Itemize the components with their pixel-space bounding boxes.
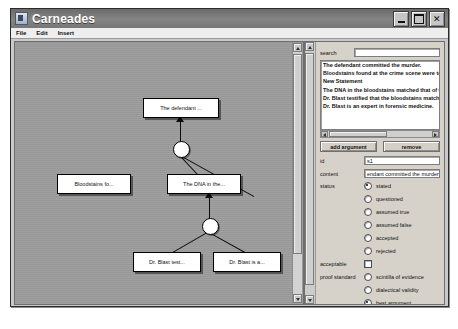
acceptable-checkbox[interactable] xyxy=(364,260,372,268)
inspector-panel: search The defendant committed the murde… xyxy=(304,41,445,305)
graph-surface[interactable]: The defendant ... Bloodstains fo... The … xyxy=(15,42,303,304)
proof-radio-dialectical[interactable] xyxy=(364,286,372,294)
status-option-questioned[interactable]: questioned xyxy=(376,196,403,202)
list-item[interactable]: The defendant committed the murder. xyxy=(321,61,439,69)
list-horizontal-scrollbar[interactable] xyxy=(320,130,440,138)
list-item[interactable]: New Statement xyxy=(321,77,439,85)
list-item[interactable]: The DNA in the bloodstains matched that … xyxy=(321,86,439,94)
proof-radio-scintilla[interactable] xyxy=(364,273,372,281)
status-row: status stated xyxy=(320,182,440,190)
status-radio-assumed-true[interactable] xyxy=(364,208,372,216)
graph-node-statement[interactable]: The DNA in the... xyxy=(167,174,241,194)
graph-node-statement[interactable]: Dr. Blast test... xyxy=(133,252,201,272)
scroll-down-icon[interactable] xyxy=(293,294,302,303)
screenshot-root: Carneades ✕ File Edit Insert xyxy=(0,0,458,329)
panel-scroll-up-icon[interactable] xyxy=(305,42,314,51)
proof-row-dialectical: dialectical validity xyxy=(364,286,440,294)
list-item[interactable]: Dr. Blast is an expert in forensic medic… xyxy=(321,102,439,110)
search-label: search xyxy=(320,50,354,56)
content-row: content endant committed the murder xyxy=(320,169,440,178)
menu-insert[interactable]: Insert xyxy=(57,30,75,36)
proof-option-scintilla[interactable]: scintilla of evidence xyxy=(376,274,424,280)
maximize-icon xyxy=(412,12,426,26)
close-icon: ✕ xyxy=(430,12,444,26)
add-argument-button[interactable]: add argument xyxy=(320,141,377,152)
window-controls: ✕ xyxy=(393,11,445,27)
action-button-row: add argument remove xyxy=(320,141,440,152)
application-window: Carneades ✕ File Edit Insert xyxy=(10,8,449,307)
status-row-rejected: rejected xyxy=(364,247,440,255)
acceptable-label: acceptable xyxy=(320,261,364,267)
window-content: The defendant ... Bloodstains fo... The … xyxy=(14,41,445,303)
close-button[interactable]: ✕ xyxy=(429,11,445,27)
title-bar[interactable]: Carneades ✕ xyxy=(11,9,448,29)
status-radio-accepted[interactable] xyxy=(364,234,372,242)
minimize-button[interactable] xyxy=(393,11,409,27)
status-option-stated[interactable]: stated xyxy=(376,183,391,189)
panel-vertical-scrollbar[interactable] xyxy=(305,42,316,304)
status-option-assumed-false[interactable]: assumed false xyxy=(376,222,411,228)
menu-edit[interactable]: Edit xyxy=(35,30,48,36)
status-row-assumed-false: assumed false xyxy=(364,221,440,229)
inspector-body: search The defendant committed the murde… xyxy=(316,42,444,304)
scroll-up-icon[interactable] xyxy=(293,43,302,52)
id-row: id s1 xyxy=(320,156,440,165)
graph-node-statement[interactable]: The defendant ... xyxy=(143,98,219,118)
graph-node-argument[interactable] xyxy=(173,141,190,158)
panel-scroll-down-icon[interactable] xyxy=(305,295,314,304)
status-option-accepted[interactable]: accepted xyxy=(376,235,398,241)
id-field[interactable]: s1 xyxy=(364,156,440,165)
graph-node-statement[interactable]: Bloodstains fo... xyxy=(57,174,131,194)
window-title: Carneades xyxy=(32,12,95,26)
app-icon xyxy=(15,12,28,25)
proof-standard-row: proof standard scintilla of evidence xyxy=(320,273,440,281)
statement-list[interactable]: The defendant committed the murder. Bloo… xyxy=(320,60,440,130)
scroll-right-icon[interactable] xyxy=(432,131,439,137)
list-item[interactable]: Dr. Blast testified that the bloodstains… xyxy=(321,94,439,102)
canvas-scroll-thumb[interactable] xyxy=(293,54,302,254)
graph-node-argument[interactable] xyxy=(202,218,219,235)
status-radio-rejected[interactable] xyxy=(364,247,372,255)
status-row-questioned: questioned xyxy=(364,195,440,203)
status-radio-stated[interactable] xyxy=(364,182,372,190)
content-field[interactable]: endant committed the murder xyxy=(364,169,440,178)
search-input[interactable] xyxy=(354,48,440,57)
content-label: content xyxy=(320,171,364,177)
minimize-icon xyxy=(394,12,408,26)
canvas-vertical-scrollbar[interactable] xyxy=(292,43,302,303)
status-option-assumed-true[interactable]: assumed true xyxy=(376,209,409,215)
status-row-assumed-true: assumed true xyxy=(364,208,440,216)
proof-row-best-argument: best argument xyxy=(364,299,440,305)
edge-a2-n5 xyxy=(209,232,246,253)
list-item[interactable]: Bloodstains found at the crime scene wer… xyxy=(321,69,439,77)
status-option-rejected[interactable]: rejected xyxy=(376,248,396,254)
menu-bar: File Edit Insert xyxy=(11,28,448,39)
status-label: status xyxy=(320,183,364,189)
search-row: search xyxy=(320,47,440,58)
status-row-accepted: accepted xyxy=(364,234,440,242)
scroll-left-icon[interactable] xyxy=(321,131,328,137)
status-radio-assumed-false[interactable] xyxy=(364,221,372,229)
panel-scroll-thumb[interactable] xyxy=(305,53,314,285)
acceptable-row: acceptable xyxy=(320,260,440,268)
argument-graph-canvas[interactable]: The defendant ... Bloodstains fo... The … xyxy=(14,41,304,305)
id-label: id xyxy=(320,158,364,164)
proof-option-best-argument[interactable]: best argument xyxy=(376,300,411,305)
proof-radio-best-argument[interactable] xyxy=(364,299,372,305)
status-radio-questioned[interactable] xyxy=(364,195,372,203)
remove-button[interactable]: remove xyxy=(383,141,440,152)
property-form: id s1 content endant committed the murde… xyxy=(316,156,444,304)
list-scroll-thumb[interactable] xyxy=(329,131,387,137)
graph-node-statement[interactable]: Dr. Blast is a... xyxy=(213,252,281,272)
proof-standard-label: proof standard xyxy=(320,274,364,280)
maximize-button[interactable] xyxy=(411,11,427,27)
proof-option-dialectical[interactable]: dialectical validity xyxy=(376,287,419,293)
menu-file[interactable]: File xyxy=(15,30,27,36)
